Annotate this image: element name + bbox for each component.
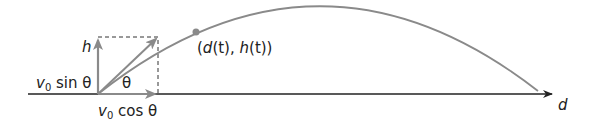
vertical-component-label: v0 sin θ bbox=[36, 74, 91, 93]
horizontal-component-label: v0 cos θ bbox=[98, 102, 157, 121]
trajectory-curve bbox=[98, 6, 538, 94]
d-axis-label: d bbox=[558, 96, 568, 114]
point-label: (d(t), h(t)) bbox=[197, 39, 272, 57]
h-axis-label: h bbox=[82, 38, 92, 56]
angle-label: θ bbox=[122, 74, 131, 92]
trajectory-point bbox=[193, 29, 200, 36]
projectile-diagram: h v0 sin θ θ v0 cos θ (d(t), h(t)) d bbox=[0, 0, 589, 133]
